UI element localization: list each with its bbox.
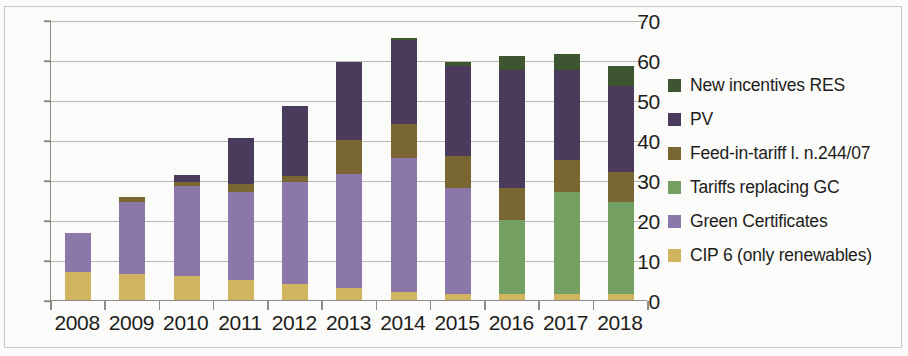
- legend-swatch-icon: [668, 249, 681, 262]
- x-axis-tick-label: 2011: [210, 312, 270, 333]
- x-axis-tick-label: 2018: [590, 312, 650, 333]
- bar-segment: [554, 70, 580, 160]
- bar-segment: [499, 294, 525, 300]
- y-axis-tick-mark: [44, 100, 51, 102]
- stacked-bar[interactable]: [65, 233, 91, 300]
- stacked-bar[interactable]: [336, 62, 362, 300]
- y-axis-tick-mark: [44, 220, 51, 222]
- y-axis-tick-label: 40: [618, 131, 660, 152]
- stacked-bar[interactable]: [391, 38, 417, 300]
- bar-segment: [228, 280, 254, 300]
- y-axis-tick-mark: [44, 140, 51, 142]
- bar-segment: [499, 56, 525, 70]
- bar-group: [268, 21, 322, 300]
- x-axis-tick-label: 2012: [264, 312, 324, 333]
- bar-segment: [445, 156, 471, 188]
- bar-segment: [336, 62, 362, 140]
- y-axis-tick-label: 60: [618, 51, 660, 72]
- bar-segment: [282, 182, 308, 284]
- x-axis-tick-mark: [593, 301, 595, 310]
- x-axis-tick-mark: [159, 301, 161, 310]
- legend-item[interactable]: Feed-in-tariff l. n.244/07: [668, 136, 904, 170]
- stacked-bar[interactable]: [499, 56, 525, 300]
- stacked-bar[interactable]: [282, 106, 308, 300]
- bar-segment: [554, 294, 580, 300]
- bar-segment: [65, 272, 91, 300]
- bar-segment: [391, 124, 417, 158]
- stacked-bar[interactable]: [554, 54, 580, 300]
- legend-item-label: Feed-in-tariff l. n.244/07: [690, 143, 870, 164]
- stacked-bar-chart-figure: 0102030405060702008200920102011201220132…: [0, 0, 908, 356]
- legend-item-label: CIP 6 (only renewables): [690, 245, 872, 266]
- legend-item[interactable]: PV: [668, 102, 904, 136]
- legend-item[interactable]: Tariffs replacing GC: [668, 170, 904, 204]
- bar-segment: [174, 276, 200, 300]
- bar-group: [51, 21, 105, 300]
- y-axis-tick-mark: [44, 180, 51, 182]
- bar-group: [539, 21, 593, 300]
- x-axis-tick-mark: [538, 301, 540, 310]
- bar-segment: [391, 40, 417, 124]
- bar-segment: [499, 70, 525, 188]
- bar-segment: [65, 233, 91, 272]
- y-axis-tick-label: 0: [618, 291, 660, 312]
- y-axis-tick-label: 10: [618, 251, 660, 272]
- y-axis-tick-label: 20: [618, 211, 660, 232]
- x-axis-tick-label: 2013: [319, 312, 379, 333]
- legend-swatch-icon: [668, 181, 681, 194]
- plot-area: [50, 21, 647, 301]
- bar-group: [160, 21, 214, 300]
- bar-segment: [336, 174, 362, 288]
- legend-swatch-icon: [668, 147, 681, 160]
- x-axis-tick-mark: [484, 301, 486, 310]
- x-axis-tick-label: 2009: [101, 312, 161, 333]
- x-axis-tick-mark: [376, 301, 378, 310]
- bar-segment: [228, 138, 254, 184]
- bar-group: [485, 21, 539, 300]
- bar-segment: [282, 284, 308, 300]
- bar-group: [214, 21, 268, 300]
- bar-segment: [391, 292, 417, 300]
- bar-segment: [174, 175, 200, 182]
- x-axis-tick-mark: [50, 301, 52, 310]
- y-axis-tick-label: 70: [618, 11, 660, 32]
- bar-segment: [554, 192, 580, 294]
- stacked-bar[interactable]: [174, 175, 200, 300]
- stacked-bar[interactable]: [119, 197, 145, 300]
- bar-segment: [499, 188, 525, 220]
- legend-item[interactable]: New incentives RES: [668, 68, 904, 102]
- x-axis-tick-mark: [321, 301, 323, 310]
- x-axis-tick-label: 2016: [481, 312, 541, 333]
- x-axis-tick-mark: [647, 301, 649, 310]
- legend-swatch-icon: [668, 215, 681, 228]
- bar-segment: [445, 294, 471, 300]
- legend-item-label: New incentives RES: [690, 75, 845, 96]
- bar-segment: [119, 274, 145, 300]
- y-axis-tick-label: 50: [618, 91, 660, 112]
- bar-segment: [391, 158, 417, 292]
- bar-segment: [228, 184, 254, 192]
- legend-item[interactable]: Green Certificates: [668, 204, 904, 238]
- bar-segment: [554, 160, 580, 192]
- x-axis-tick-label: 2008: [47, 312, 107, 333]
- y-axis-tick-mark: [44, 20, 51, 22]
- stacked-bar[interactable]: [445, 62, 471, 300]
- y-axis-tick-mark: [44, 60, 51, 62]
- bar-segment: [282, 106, 308, 176]
- bar-segment: [554, 54, 580, 70]
- x-axis-tick-label: 2014: [373, 312, 433, 333]
- x-axis-tick-label: 2017: [536, 312, 596, 333]
- x-axis-tick-mark: [267, 301, 269, 310]
- x-axis-tick-label: 2015: [427, 312, 487, 333]
- stacked-bar[interactable]: [228, 138, 254, 300]
- bar-segment: [336, 140, 362, 174]
- y-axis-tick-label: 30: [618, 171, 660, 192]
- legend-swatch-icon: [668, 79, 681, 92]
- bar-segment: [499, 220, 525, 294]
- legend-item[interactable]: CIP 6 (only renewables): [668, 238, 904, 272]
- x-axis-tick-mark: [213, 301, 215, 310]
- bar-group: [377, 21, 431, 300]
- legend-swatch-icon: [668, 113, 681, 126]
- x-axis-tick-label: 2010: [156, 312, 216, 333]
- bar-segment: [445, 188, 471, 294]
